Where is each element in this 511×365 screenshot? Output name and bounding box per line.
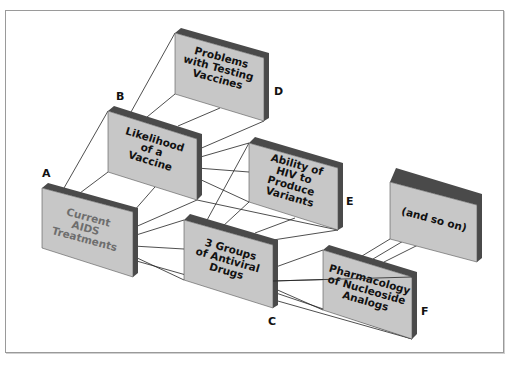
card-and-so-on[interactable]: (and so on): [390, 168, 482, 262]
label-d: D: [274, 85, 283, 98]
card-current-aids-treatments[interactable]: Current AIDS Treatments: [42, 183, 138, 277]
label-f: F: [421, 305, 429, 318]
label-a: A: [42, 167, 51, 180]
diagram-canvas: Problems with Testing Vaccines D Likelih…: [0, 0, 511, 365]
label-b: B: [116, 90, 124, 103]
label-c: C: [268, 315, 276, 328]
card-3-groups-antiviral-drugs[interactable]: 3 Groups of Antiviral Drugs: [184, 214, 278, 308]
label-e: E: [346, 195, 354, 208]
diagram-svg: Problems with Testing Vaccines D Likelih…: [0, 0, 511, 365]
card-pharmacology-nucleoside-analogs[interactable]: Pharmacology of Nucleoside Analogs: [273, 245, 417, 339]
card-ability-hiv-variants[interactable]: Ability of HIV to Produce Variants: [249, 137, 343, 230]
card-problems-testing-vaccines[interactable]: Problems with Testing Vaccines: [175, 28, 269, 121]
card-likelihood-of-vaccine[interactable]: Likelihood of a Vaccine: [108, 106, 202, 200]
